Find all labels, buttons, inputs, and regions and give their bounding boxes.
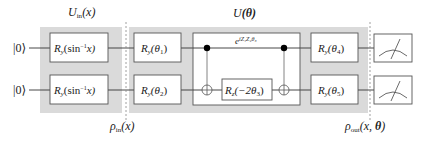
gate-ry-encode-q2: Ry(sin−1x) (50, 75, 108, 104)
gate-rz-minus-2theta3: Rz(−2θ3) (222, 79, 272, 100)
gate-ry-theta4: Ry(θ4) (311, 33, 358, 62)
svg-text:Ry(sin−1x): Ry(sin−1x) (53, 42, 96, 56)
rho-in-label: ρin(x) (109, 119, 135, 134)
measurement-q2 (374, 76, 412, 104)
gate-ry-theta1: Ry(θ1) (134, 33, 181, 62)
input-state-q2: |0⟩ (13, 83, 26, 97)
svg-text:Ry(θ4): Ry(θ4) (317, 42, 344, 56)
control-dot-icon (281, 45, 287, 51)
svg-text:Ry(sin−1x): Ry(sin−1x) (53, 84, 96, 98)
encoding-block-title: Uin(x) (68, 5, 95, 20)
gate-ry-theta2: Ry(θ2) (134, 75, 181, 104)
input-state-q1: |0⟩ (13, 41, 26, 55)
control-dot-icon (204, 45, 210, 51)
svg-text:Ry(θ2): Ry(θ2) (140, 84, 167, 98)
gate-ry-theta5: Ry(θ5) (311, 75, 358, 104)
measurement-q1 (374, 34, 412, 62)
svg-text:Ry(θ1): Ry(θ1) (140, 42, 167, 56)
variational-block-title: U(θ) (233, 6, 256, 20)
svg-text:Ry(θ5): Ry(θ5) (317, 84, 344, 98)
entangler-block: eiZ₁Z₂θ₃ Rz(−2θ3) (193, 33, 300, 105)
quantum-circuit-diagram: |0⟩ |0⟩ Uin(x) U(θ) Ry(sin−1x) Ry(sin−1x… (0, 0, 425, 142)
gate-ry-encode-q1: Ry(sin−1x) (50, 33, 108, 62)
rho-out-label: ρout(x, θ) (344, 119, 385, 134)
